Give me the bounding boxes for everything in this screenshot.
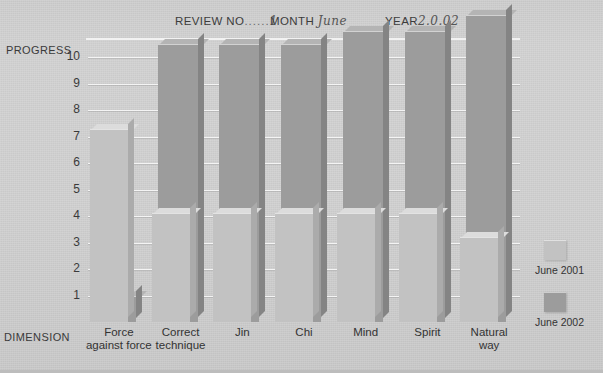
y-tick-label: 10 xyxy=(34,49,80,63)
bar-june-2001 xyxy=(213,213,251,322)
legend-label: June 2002 xyxy=(535,316,595,328)
bar-group xyxy=(335,44,397,322)
y-tick-label: 7 xyxy=(34,129,80,143)
y-tick-label: 4 xyxy=(34,208,80,222)
review-no-label: REVIEW NO xyxy=(175,15,244,27)
x-category-line: way xyxy=(450,339,528,352)
legend-item: June 2002 xyxy=(535,292,595,328)
legend-item: June 2001 xyxy=(535,240,595,276)
bar-june-2001 xyxy=(275,213,313,322)
bar-june-2001 xyxy=(90,129,128,322)
legend-swatch xyxy=(544,240,566,260)
y-tick-label: 2 xyxy=(34,261,80,275)
x-category-line: technique xyxy=(142,339,220,352)
bar-group xyxy=(458,44,520,322)
month-field: MONTH June xyxy=(270,14,347,28)
bar-group xyxy=(88,44,150,322)
y-tick-label: 6 xyxy=(34,155,80,169)
y-tick-label: 1 xyxy=(34,288,80,302)
bar-group xyxy=(150,44,212,322)
x-category-label: Naturalway xyxy=(450,326,528,352)
y-tick-label: 8 xyxy=(34,102,80,116)
month-label: MONTH xyxy=(270,15,314,27)
x-axis-title: DIMENSION xyxy=(4,331,70,343)
plot-area xyxy=(88,44,520,322)
legend-label: June 2001 xyxy=(535,264,595,276)
y-tick-label: 9 xyxy=(34,76,80,90)
y-tick-label: 3 xyxy=(34,235,80,249)
x-category-line: Natural xyxy=(450,326,528,339)
bar-group xyxy=(273,44,335,322)
month-value: June xyxy=(318,14,347,28)
review-no-dots: ...... xyxy=(244,15,269,27)
bar-group xyxy=(211,44,273,322)
chart-sheet: REVIEW NO......1 MONTH June YEAR2.0.02 P… xyxy=(0,0,603,373)
bar-group xyxy=(397,44,459,322)
bar-june-2001 xyxy=(152,213,190,322)
bar-june-2001 xyxy=(337,213,375,322)
y-tick-label: 5 xyxy=(34,182,80,196)
bar-june-2001 xyxy=(460,237,498,322)
review-no-field: REVIEW NO......1 xyxy=(175,14,278,28)
chart-legend: June 2001June 2002 xyxy=(535,240,595,344)
bar-june-2001 xyxy=(399,213,437,322)
legend-swatch xyxy=(544,292,566,312)
